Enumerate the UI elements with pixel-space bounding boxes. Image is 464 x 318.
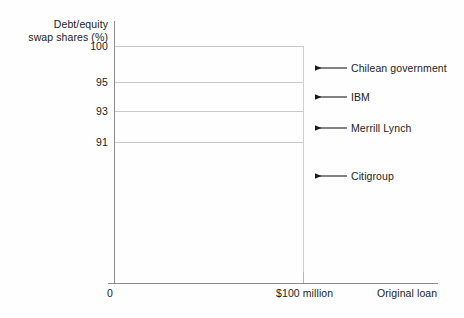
callout-label-chilean-government: Chilean government <box>351 62 447 74</box>
y-tick-label-100: 100 <box>56 40 108 52</box>
gridline-91 <box>114 142 304 143</box>
callout-label-citigroup: Citigroup <box>351 170 394 182</box>
y-tick-label-91: 91 <box>56 136 108 148</box>
x-axis-line <box>108 283 438 284</box>
y-tick-label-93: 93 <box>56 105 108 117</box>
x-axis-label: Original loan <box>377 287 437 299</box>
plot-right-edge <box>303 46 304 284</box>
callout-label-ibm: IBM <box>351 91 370 103</box>
x-tick-mark-100-million <box>303 272 304 283</box>
chart-figure: Debt/equity swap shares (%) 100 95 93 91… <box>0 0 464 318</box>
gridline-95 <box>114 82 304 83</box>
gridline-100 <box>114 46 304 47</box>
y-tick-label-95: 95 <box>56 76 108 88</box>
callout-label-merrill-lynch: Merrill Lynch <box>351 122 411 134</box>
x-tick-label-100-million: $100 million <box>276 287 333 299</box>
x-tick-label-zero: 0 <box>107 287 113 299</box>
gridline-93 <box>114 111 304 112</box>
y-axis-line <box>114 21 115 284</box>
